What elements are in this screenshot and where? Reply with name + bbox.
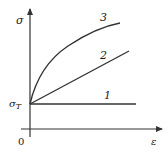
curve-2-label: 2 (99, 49, 107, 62)
y-axis-label: σ (16, 14, 24, 27)
yield-stress-label: σT (9, 98, 22, 111)
curve-1-label: 1 (104, 89, 111, 102)
x-axis-label: ε (151, 136, 156, 147)
curve-2 (30, 51, 129, 104)
curve-3-label: 3 (100, 11, 107, 24)
origin-label: 0 (18, 136, 24, 147)
stress-strain-diagram: σ ε 0 σT 1 2 3 (0, 0, 168, 154)
